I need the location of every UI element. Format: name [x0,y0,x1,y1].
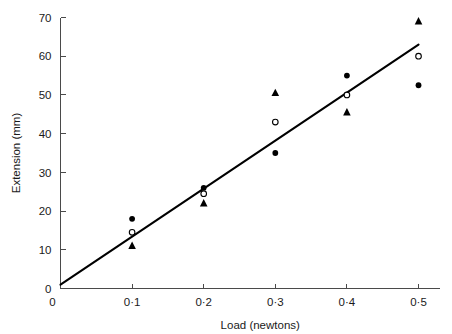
chart-figure: 010203040506070 00·10·20·30·40·5 Extensi… [0,0,452,334]
best-fit-line [61,45,419,285]
y-axis-tick-labels: 010203040506070 [39,12,52,295]
marker-filled-circle [416,82,422,88]
y-axis-ticks [61,18,66,250]
y-tick-label: 30 [39,167,52,179]
y-axis-title: Extension (mm) [10,113,22,194]
x-tick-label: 0·4 [339,296,356,308]
marker-open-circle [201,191,207,197]
marker-filled-triangle [343,108,351,115]
data-markers [128,17,422,249]
marker-filled-circle [201,185,207,191]
y-tick-label: 40 [39,128,52,140]
y-tick-label: 60 [39,50,52,62]
x-axis-ticks [132,284,418,289]
y-tick-label: 50 [39,89,52,101]
x-tick-label: 0·3 [267,296,284,308]
marker-filled-circle [272,150,278,156]
marker-open-circle [416,53,422,59]
axes [61,18,441,289]
x-axis-tick-labels: 00·10·20·30·40·5 [49,296,427,308]
x-axis-title: Load (newtons) [221,319,300,331]
marker-open-circle [344,92,350,98]
marker-filled-triangle [128,242,136,249]
marker-filled-circle [344,73,350,79]
marker-filled-triangle [415,17,423,24]
marker-open-circle [273,119,279,125]
marker-filled-circle [129,216,135,222]
marker-open-circle [129,230,135,236]
x-tick-label: 0·1 [124,296,141,308]
marker-filled-triangle [200,199,208,206]
y-tick-label: 20 [39,205,52,217]
x-tick-label: 0·2 [195,296,212,308]
y-tick-label: 70 [39,12,52,24]
scatter-plot: 010203040506070 00·10·20·30·40·5 Extensi… [0,0,452,334]
y-tick-label: 10 [39,244,52,256]
y-tick-label: 0 [45,283,51,295]
marker-filled-triangle [272,89,280,96]
x-tick-label: 0·5 [410,296,427,308]
x-tick-label: 0 [49,296,55,308]
